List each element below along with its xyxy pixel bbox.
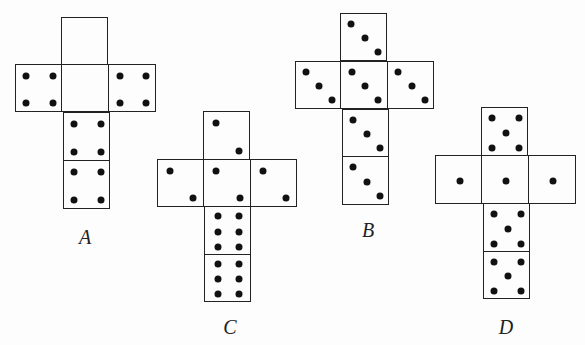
die-face [61, 64, 109, 112]
pip-dot [517, 210, 524, 217]
pip-dot [236, 244, 243, 251]
pip-dot [517, 258, 524, 265]
pip-dot [214, 228, 221, 235]
pip-dot [515, 145, 522, 152]
die-face [63, 112, 110, 161]
pip-dot [491, 288, 498, 295]
cube-nets-figure: ABCD [0, 0, 585, 345]
die-face [342, 156, 389, 205]
pip-dot [236, 276, 243, 283]
die-face [481, 155, 529, 204]
pip-dot [491, 241, 498, 248]
pip-dot [376, 193, 383, 200]
die-face [340, 13, 387, 61]
pip-dot [515, 114, 522, 121]
pip-dot [143, 72, 150, 79]
pip-dot [456, 177, 463, 184]
pip-dot [363, 178, 370, 185]
pip-dot [213, 167, 220, 174]
pip-dot [71, 149, 78, 156]
net-label: D [499, 316, 513, 339]
pip-dot [190, 195, 197, 202]
pip-dot [503, 177, 510, 184]
die-face [63, 160, 110, 209]
pip-dot [395, 68, 402, 75]
pip-dot [236, 148, 243, 155]
pip-dot [49, 100, 56, 107]
die-face [528, 155, 576, 204]
die-face [435, 155, 482, 204]
pip-dot [236, 228, 243, 235]
die-face [481, 107, 528, 156]
pip-dot [362, 83, 369, 90]
die-face [342, 109, 389, 157]
pip-dot [214, 291, 221, 298]
die-face [157, 159, 204, 207]
pip-dot [502, 129, 509, 136]
pip-dot [363, 131, 370, 138]
pip-dot [408, 83, 415, 90]
pip-dot [143, 100, 150, 107]
pip-dot [116, 72, 123, 79]
pip-dot [214, 260, 221, 267]
pip-dot [504, 273, 511, 280]
die-face [340, 61, 388, 109]
net-label: A [79, 226, 91, 249]
pip-dot [361, 35, 368, 42]
die-face [483, 251, 530, 299]
pip-dot [504, 225, 511, 232]
pip-dot [491, 258, 498, 265]
pip-dot [23, 100, 30, 107]
pip-dot [214, 276, 221, 283]
die-face [203, 159, 251, 207]
die-face [61, 17, 108, 65]
pip-dot [23, 72, 30, 79]
pip-dot [236, 291, 243, 298]
pip-dot [376, 145, 383, 152]
pip-dot [166, 167, 173, 174]
pip-dot [316, 83, 323, 90]
die-face [15, 64, 62, 112]
pip-dot [348, 20, 355, 27]
die-face [387, 61, 434, 109]
pip-dot [491, 210, 498, 217]
pip-dot [71, 197, 78, 204]
pip-dot [71, 168, 78, 175]
pip-dot [517, 241, 524, 248]
die-face [108, 64, 156, 112]
pip-dot [71, 120, 78, 127]
pip-dot [97, 149, 104, 156]
die-face [483, 203, 530, 252]
die-face [250, 159, 297, 207]
pip-dot [116, 100, 123, 107]
pip-dot [214, 212, 221, 219]
net-label: B [362, 219, 374, 242]
die-face [204, 206, 251, 255]
pip-dot [489, 145, 496, 152]
pip-dot [283, 195, 290, 202]
die-face [295, 61, 341, 109]
net-label: C [223, 316, 236, 339]
pip-dot [374, 49, 381, 56]
pip-dot [97, 168, 104, 175]
pip-dot [350, 163, 357, 170]
pip-dot [214, 244, 221, 251]
pip-dot [350, 116, 357, 123]
pip-dot [236, 212, 243, 219]
pip-dot [97, 120, 104, 127]
die-face [203, 111, 250, 160]
pip-dot [212, 119, 219, 126]
pip-dot [328, 97, 335, 104]
die-face [204, 254, 251, 302]
pip-dot [489, 114, 496, 121]
pip-dot [259, 167, 266, 174]
pip-dot [517, 288, 524, 295]
pip-dot [303, 68, 310, 75]
pip-dot [421, 97, 428, 104]
pip-dot [237, 195, 244, 202]
pip-dot [49, 72, 56, 79]
pip-dot [236, 260, 243, 267]
pip-dot [550, 177, 557, 184]
pip-dot [348, 68, 355, 75]
pip-dot [97, 197, 104, 204]
